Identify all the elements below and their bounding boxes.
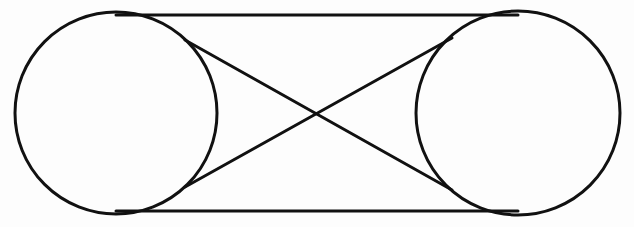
cross-belt-line-2 (185, 38, 452, 187)
cross-belt-line-1 (185, 40, 452, 190)
belt-pulley-diagram (0, 0, 634, 227)
